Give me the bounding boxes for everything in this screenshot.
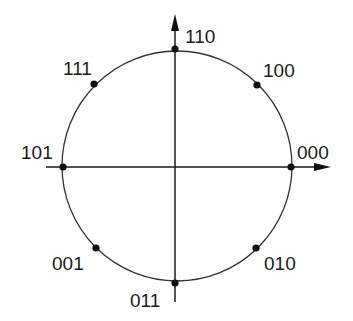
symbol-label-011: 011 <box>130 290 160 311</box>
symbol-point-100 <box>253 81 260 88</box>
symbol-label-001: 001 <box>52 253 84 274</box>
symbol-point-110 <box>171 45 178 52</box>
vertical-axis-arrow-icon <box>171 14 179 31</box>
symbol-label-110: 110 <box>185 26 215 47</box>
symbol-point-001 <box>92 244 99 251</box>
symbol-point-010 <box>252 244 259 251</box>
symbol-label-111: 111 <box>63 58 92 79</box>
constellation-diagram: 000100110111101001011010 <box>0 0 353 321</box>
horizontal-axis-arrow-icon <box>314 163 331 171</box>
symbol-point-111 <box>90 80 97 87</box>
symbol-label-100: 100 <box>263 60 295 81</box>
symbol-point-101 <box>59 163 66 170</box>
symbol-label-010: 010 <box>264 253 296 274</box>
symbol-label-101: 101 <box>21 142 53 163</box>
constellation-points <box>59 45 294 286</box>
symbol-point-000 <box>287 163 294 170</box>
symbol-point-011 <box>171 279 178 286</box>
symbol-label-000: 000 <box>297 142 329 163</box>
